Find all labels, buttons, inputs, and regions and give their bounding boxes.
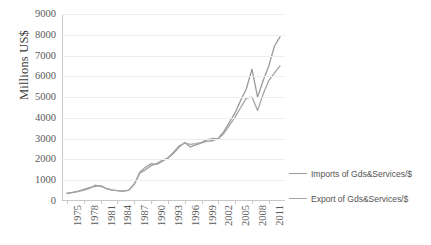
y-tick-label: 2000 [10,153,56,165]
gridline [62,180,285,181]
gridline [62,14,285,15]
gridline [62,56,285,57]
x-tick-label: 1984 [122,205,134,239]
x-tick-mark [117,201,118,204]
legend-item-label: Export of Gds&Services/$ [311,194,408,204]
x-tick-label: 2005 [240,205,252,239]
y-tick-label: 4000 [10,112,56,124]
y-tick-label: 7000 [10,50,56,62]
legend-item[interactable]: Export of Gds&Services/$ [289,189,429,208]
x-tick-mark [67,201,68,204]
gridline [62,97,285,98]
series-lines [62,14,285,201]
y-tick-label: 9000 [10,8,56,20]
x-tick-mark [202,201,203,204]
x-tick-mark [168,201,169,204]
y-tick-label: 1000 [10,174,56,186]
legend-item-label: Imports of Gds&Services/$ [311,169,412,179]
x-tick-label: 2011 [274,205,286,239]
x-tick-mark [151,201,152,204]
y-tick-label: 6000 [10,70,56,82]
x-tick-mark [84,201,85,204]
gridline [62,76,285,77]
x-tick-label: 1987 [139,205,151,239]
x-tick-label: 1978 [89,205,101,239]
x-tick-label: 1975 [72,205,84,239]
gridline [62,159,285,160]
y-axis-tick-labels: 9000800070006000500040003000200010000 [8,0,56,245]
x-tick-label: 1993 [173,205,185,239]
x-tick-label: 1996 [190,205,202,239]
plot-area [62,14,285,201]
x-tick-mark [101,201,102,204]
series-line [67,37,280,193]
gridline [62,139,285,140]
x-tick-label: 2008 [257,205,269,239]
legend-item[interactable]: Imports of Gds&Services/$ [289,164,429,183]
x-tick-mark [235,201,236,204]
y-tick-label: 0 [10,195,56,207]
legend-line-swatch [289,198,307,199]
x-tick-mark [134,201,135,204]
x-tick-label: 1990 [156,205,168,239]
line-chart-figure: Millions US$ 900080007000600050004000300… [0,0,431,245]
x-tick-mark [252,201,253,204]
x-tick-label: 1981 [106,205,118,239]
x-tick-label: 1999 [207,205,219,239]
legend-line-swatch [289,173,307,174]
gridline [62,118,285,119]
x-tick-mark [185,201,186,204]
x-axis-tick-labels: 1975197819811984198719901993199619992002… [62,201,285,245]
y-tick-label: 3000 [10,133,56,145]
gridline [62,35,285,36]
y-tick-label: 8000 [10,29,56,41]
x-tick-mark [269,201,270,204]
x-tick-label: 2002 [223,205,235,239]
x-tick-mark [218,201,219,204]
chart-legend: Imports of Gds&Services/$Export of Gds&S… [289,164,429,214]
y-tick-label: 5000 [10,91,56,103]
